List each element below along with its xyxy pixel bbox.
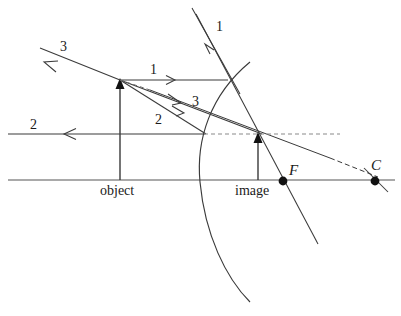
ray-3-incident (120, 80, 262, 134)
ray-3-reflected-label: 3 (60, 40, 67, 54)
mirror-arc (199, 62, 250, 302)
center-of-curvature-dot (371, 177, 380, 186)
ray-1-reflected-label: 1 (216, 20, 223, 34)
center-of-curvature-label: C (371, 158, 381, 173)
image-label: image (235, 184, 269, 198)
object-label: object (100, 184, 134, 198)
ray-3-reflected (40, 48, 120, 80)
ray-2-incident-arrowhead (172, 106, 184, 116)
focal-point-label: F (289, 163, 298, 178)
construction-line-to-center (150, 90, 330, 158)
ray-3-reflected-arrowhead (44, 61, 58, 72)
ray-1-incident-label: 1 (150, 63, 157, 77)
ray-diagram-figure: 1 1 2 2 3 3 object image F C (0, 0, 401, 316)
ray-through-focal-point (196, 14, 318, 244)
ray-2-reflected-label: 2 (30, 118, 37, 132)
ray-3-incident-label: 3 (192, 95, 199, 109)
focal-point-dot (279, 177, 288, 186)
ray-2-incident-label: 2 (155, 113, 162, 127)
